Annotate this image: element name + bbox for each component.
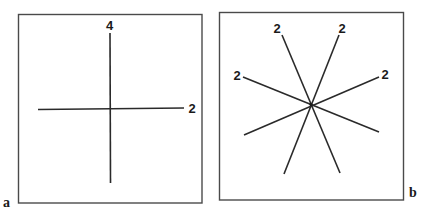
panel-a-horizontal-axis [38, 108, 184, 110]
panel-b-axis-steep-left-label: 2 [273, 21, 280, 36]
panel-b-center-point [309, 103, 312, 106]
panel-b-axis-shallow-left-label: 2 [233, 68, 240, 83]
panel-a: 4 2 a [3, 15, 202, 211]
figure: 4 2 a 2 2 2 2 b [0, 0, 430, 210]
panel-b-axis-steep-right-label: 2 [338, 21, 345, 36]
panel-b: 2 2 2 2 b [220, 13, 418, 201]
panel-a-vertical-axis-label: 4 [106, 18, 114, 33]
panel-b-label: b [409, 185, 417, 200]
panel-a-horizontal-axis-label: 2 [188, 101, 195, 116]
panel-a-label: a [3, 195, 10, 210]
panel-b-axis-shallow-right-label: 2 [381, 67, 388, 82]
